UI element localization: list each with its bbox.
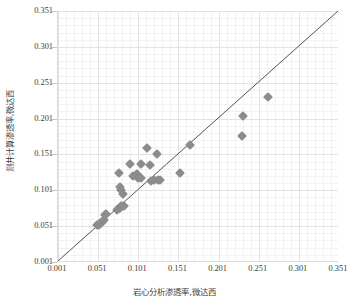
x-axis-tick-label: 0.351 — [315, 264, 349, 274]
data-point — [175, 168, 185, 178]
data-point — [263, 92, 273, 102]
y-axis-title-text: 测井计算渗透率,微达西 — [3, 90, 15, 173]
y-axis-tick-label: 0.051 — [17, 221, 53, 230]
data-point — [152, 149, 162, 159]
y-axis-tick-mark — [52, 190, 57, 191]
y-axis-tick-mark — [52, 11, 57, 12]
plot-area — [57, 11, 338, 262]
x-axis-tick-label: 0.001 — [34, 264, 80, 274]
y-axis-tick-label: 0.251 — [17, 78, 53, 87]
y-axis-tick-mark — [52, 119, 57, 120]
y-axis-tick-mark — [52, 83, 57, 84]
y-axis-tick-label: 0.201 — [17, 114, 53, 123]
x-axis-tick-labels: 0.0010.0510.1010.1510.2010.2510.3010.351 — [0, 264, 349, 278]
data-points-layer — [58, 11, 338, 261]
x-axis-tick-label: 0.301 — [275, 264, 321, 274]
y-axis-tick-label: 0.351 — [17, 6, 53, 15]
data-point — [185, 140, 195, 150]
data-point — [145, 160, 155, 170]
x-axis-tick-label: 0.251 — [235, 264, 281, 274]
data-point — [238, 111, 248, 121]
y-axis-tick-label: 0.301 — [17, 42, 53, 51]
y-axis-tick-mark — [52, 262, 57, 263]
x-axis-title: 岩心分析渗透率,微达西 — [0, 285, 349, 297]
y-axis-title: 测井计算渗透率,微达西 — [0, 0, 18, 262]
y-axis-tick-label: 0.151 — [17, 149, 53, 158]
x-axis-tick-label: 0.151 — [154, 264, 200, 274]
data-point — [237, 131, 247, 141]
y-axis-tick-mark — [52, 47, 57, 48]
x-axis-tick-label: 0.051 — [74, 264, 120, 274]
scatter-chart: 测井计算渗透率,微达西 0.0010.0510.1010.1510.2010.2… — [0, 0, 349, 306]
y-axis-tick-labels: 0.0010.0510.1010.1510.2010.2510.3010.351 — [18, 0, 56, 272]
y-axis-tick-label: 0.101 — [17, 185, 53, 194]
x-axis-tick-label: 0.201 — [195, 264, 241, 274]
data-point — [142, 143, 152, 153]
x-axis-tick-label: 0.101 — [114, 264, 160, 274]
data-point — [114, 168, 124, 178]
y-axis-tick-mark — [52, 154, 57, 155]
data-point — [125, 159, 135, 169]
y-axis-tick-mark — [52, 226, 57, 227]
